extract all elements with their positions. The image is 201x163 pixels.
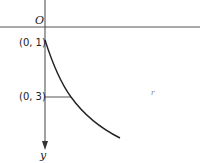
point-a-label: (0, 1)	[19, 38, 46, 48]
point-b-label: (0, 3)	[19, 92, 46, 102]
y-axis-label: y	[40, 150, 46, 161]
curve-label: r	[151, 90, 154, 97]
origin-label: O	[35, 15, 44, 26]
decay-curve	[45, 40, 120, 138]
diagram-canvas	[0, 0, 201, 163]
